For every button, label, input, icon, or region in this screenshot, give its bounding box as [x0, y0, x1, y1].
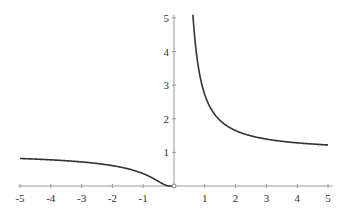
- curve-right-branch: [193, 15, 328, 145]
- x-tick-label: -5: [15, 192, 25, 204]
- open-circle-origin: [172, 184, 176, 188]
- x-tick-label: -2: [108, 192, 117, 204]
- x-tick-label: 3: [264, 192, 270, 204]
- x-tick-label: 4: [294, 192, 300, 204]
- x-tick-label: -1: [139, 192, 148, 204]
- y-tick-label: 3: [164, 79, 170, 91]
- x-tick-label: 5: [325, 192, 331, 204]
- y-tick-label: 5: [164, 12, 170, 24]
- curve-left-branch: [20, 158, 174, 186]
- ticks: -5-4-3-2-11234512345: [15, 12, 331, 204]
- x-tick-label: 2: [233, 192, 239, 204]
- function-plot: -5-4-3-2-11234512345: [0, 0, 346, 214]
- y-tick-label: 4: [164, 46, 170, 58]
- x-tick-label: 1: [202, 192, 208, 204]
- x-tick-label: -4: [46, 192, 56, 204]
- y-tick-label: 2: [164, 113, 170, 125]
- y-tick-label: 1: [164, 146, 170, 158]
- x-tick-label: -3: [77, 192, 87, 204]
